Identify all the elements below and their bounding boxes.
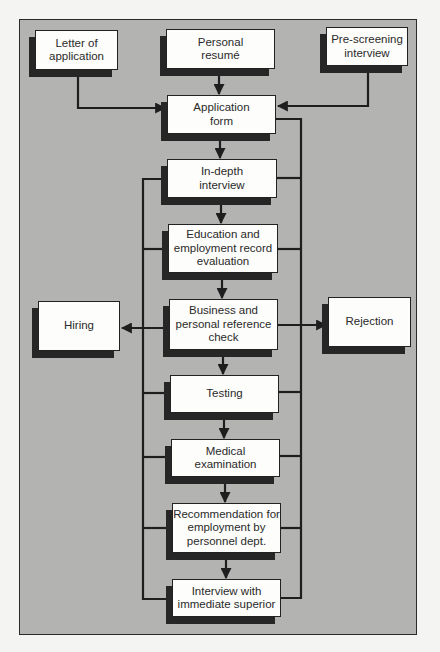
- node-application-form: Application form: [167, 95, 276, 134]
- node-education-employment-evaluation: Education and employment record evaluati…: [168, 224, 278, 273]
- node-recommendation: Recommendation for employment by personn…: [172, 503, 281, 553]
- node-in-depth-interview: In-depth interview: [167, 159, 277, 198]
- node-testing: Testing: [170, 375, 279, 413]
- node-hiring: Hiring: [38, 301, 120, 351]
- node-personal-resume: Personal resumé: [166, 29, 275, 69]
- node-letter-of-application: Letter of application: [35, 30, 118, 70]
- node-pre-screening-interview: Pre-screening interview: [326, 27, 408, 66]
- arrow-letter-to-form: [78, 74, 165, 108]
- node-reference-check: Business and personal reference check: [169, 299, 278, 350]
- node-rejection: Rejection: [328, 297, 411, 347]
- node-interview-immediate-superior: Interview with immediate superior: [172, 579, 281, 617]
- arrow-prescreen-to-form: [278, 72, 368, 106]
- node-medical-examination: Medical examination: [171, 439, 280, 477]
